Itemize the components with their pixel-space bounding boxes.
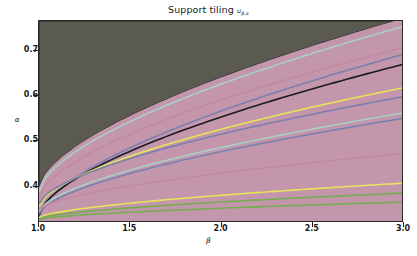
y-tick-mark	[33, 50, 38, 51]
x-tick-label: 3.0	[383, 224, 417, 233]
x-tick-mark	[129, 222, 130, 227]
figure-canvas: Support tiling uβ,α α β 0.40.50.60.71.01…	[0, 0, 417, 256]
y-axis-label: α	[10, 116, 24, 124]
chart-title-subscript: β,α	[241, 11, 249, 16]
x-tick-mark	[403, 222, 404, 227]
x-tick-mark	[38, 222, 39, 227]
plot-area	[38, 20, 403, 222]
tiling-bands	[39, 21, 402, 221]
x-tick-mark	[312, 222, 313, 227]
x-axis-label: β	[0, 236, 417, 245]
y-tick-mark	[33, 95, 38, 96]
chart-title-symbol: uβ,α	[237, 7, 249, 15]
x-tick-mark	[221, 222, 222, 227]
chart-title: Support tiling uβ,α	[0, 4, 417, 16]
chart-title-text: Support tiling	[168, 4, 234, 15]
y-tick-mark	[33, 140, 38, 141]
y-tick-mark	[33, 186, 38, 187]
